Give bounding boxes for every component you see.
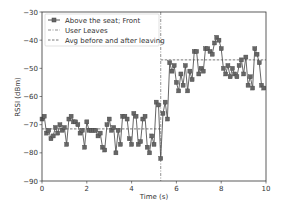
data-point-marker: [62, 125, 66, 129]
data-point-marker: [105, 123, 109, 127]
data-point-marker: [235, 75, 239, 79]
data-point-marker: [103, 148, 107, 152]
data-point-marker: [85, 120, 89, 124]
x-tick-label: 6: [174, 185, 179, 193]
rssi-series-line: [42, 37, 264, 158]
data-point-marker: [98, 131, 102, 135]
data-point-marker: [80, 128, 84, 132]
y-tick-label: −30: [23, 9, 38, 17]
data-point-marker: [230, 66, 234, 70]
data-point-marker: [118, 142, 122, 146]
data-point-marker: [47, 128, 51, 132]
data-point-marker: [161, 111, 165, 115]
data-point-marker: [179, 72, 183, 76]
x-tick-label: 2: [85, 185, 89, 193]
legend-label-series: Above the seat; Front: [65, 17, 140, 25]
data-point-marker: [212, 41, 216, 45]
legend: Above the seat; Front User Leaves Avg be…: [45, 14, 165, 46]
data-point-marker: [195, 49, 199, 53]
x-tick-label: 10: [262, 185, 271, 193]
data-point-marker: [219, 47, 223, 51]
data-point-marker: [107, 117, 111, 121]
data-point-marker: [145, 145, 149, 149]
data-point-marker: [150, 134, 154, 138]
x-tick-label: 0: [40, 185, 44, 193]
data-point-marker: [246, 83, 250, 87]
data-point-marker: [163, 100, 167, 104]
data-point-marker: [51, 134, 55, 138]
data-point-marker: [159, 156, 163, 160]
data-point-marker: [210, 52, 214, 56]
data-point-marker: [42, 114, 46, 118]
data-point-marker: [156, 103, 160, 107]
rssi-chart: 0246810−90−80−70−60−50−40−30 Time (s) RS…: [0, 0, 282, 209]
data-point-marker: [130, 142, 134, 146]
x-axis-label: Time (s): [139, 193, 169, 201]
data-point-marker: [253, 47, 257, 51]
data-point-marker: [69, 114, 73, 118]
data-point-marker: [168, 61, 172, 65]
data-point-marker: [262, 86, 266, 90]
data-point-marker: [181, 83, 185, 87]
data-point-marker: [76, 123, 80, 127]
legend-label-user-leaves: User Leaves: [65, 27, 108, 35]
x-tick-label: 4: [129, 185, 134, 193]
data-point-marker: [190, 78, 194, 82]
data-point-marker: [65, 142, 69, 146]
data-point-marker: [188, 69, 192, 73]
data-point-marker: [172, 64, 176, 68]
data-point-marker: [53, 125, 57, 129]
data-point-marker: [255, 52, 259, 56]
x-tick-label: 8: [219, 185, 223, 193]
data-point-marker: [248, 75, 252, 79]
data-point-marker: [224, 72, 228, 76]
data-point-marker: [112, 125, 116, 129]
y-tick-label: −50: [23, 65, 38, 73]
data-point-marker: [83, 145, 87, 149]
data-point-marker: [127, 137, 131, 141]
legend-label-avg: Avg before and after leaving: [65, 37, 165, 45]
data-point-marker: [217, 38, 221, 42]
data-point-marker: [228, 75, 232, 79]
data-point-marker: [221, 66, 225, 70]
y-tick-label: −70: [23, 121, 38, 129]
data-point-marker: [186, 89, 190, 93]
data-point-marker: [134, 114, 138, 118]
data-point-marker: [170, 69, 174, 73]
y-tick-label: −60: [23, 93, 38, 101]
data-point-marker: [174, 80, 178, 84]
data-point-marker: [94, 128, 98, 132]
y-tick-label: −40: [23, 37, 38, 45]
legend-square-marker-icon: [52, 18, 56, 22]
data-point-marker: [56, 131, 60, 135]
data-point-marker: [139, 140, 143, 144]
data-point-marker: [177, 89, 181, 93]
data-point-marker: [197, 72, 201, 76]
y-tick-label: −90: [23, 178, 38, 186]
data-point-marker: [226, 64, 230, 68]
data-point-marker: [152, 142, 156, 146]
data-point-marker: [201, 69, 205, 73]
data-point-marker: [244, 55, 248, 59]
data-point-marker: [114, 151, 118, 155]
data-point-marker: [143, 114, 147, 118]
data-point-marker: [148, 151, 152, 155]
data-point-marker: [116, 128, 120, 132]
data-point-marker: [251, 86, 255, 90]
data-point-marker: [239, 58, 243, 62]
data-point-marker: [237, 64, 241, 68]
data-point-marker: [125, 117, 129, 121]
data-point-marker: [242, 72, 246, 76]
y-axis-label: RSSI (dBm): [14, 77, 22, 117]
data-point-marker: [165, 117, 169, 121]
data-point-marker: [257, 61, 261, 65]
y-tick-label: −80: [23, 149, 38, 157]
data-point-marker: [58, 123, 62, 127]
data-point-marker: [183, 64, 187, 68]
